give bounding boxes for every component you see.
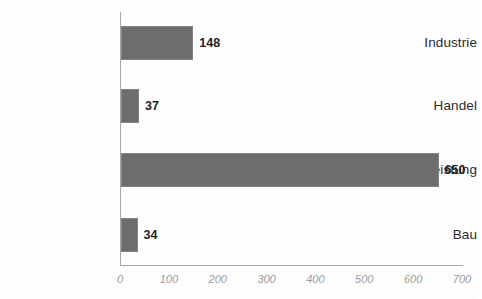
category-label-industrie: Industrie bbox=[365, 36, 477, 50]
bar-dienstleistung bbox=[121, 153, 439, 187]
value-label-bau: 34 bbox=[144, 229, 158, 242]
value-label-handel: 37 bbox=[145, 100, 159, 113]
x-tick-label-400: 400 bbox=[295, 274, 335, 285]
x-tick-label-600: 600 bbox=[393, 274, 433, 285]
category-label-handel: Handel bbox=[365, 99, 477, 113]
bar-industrie bbox=[121, 26, 193, 60]
x-tick-label-700: 700 bbox=[442, 274, 482, 285]
value-label-dienstleistung: 650 bbox=[445, 164, 466, 177]
x-tick-label-500: 500 bbox=[344, 274, 384, 285]
category-label-bau: Bau bbox=[365, 228, 477, 242]
bar-handel bbox=[121, 89, 139, 123]
x-tick-label-100: 100 bbox=[149, 274, 189, 285]
bar-bau bbox=[121, 218, 138, 252]
x-tick-label-300: 300 bbox=[247, 274, 287, 285]
x-tick-label-0: 0 bbox=[100, 274, 140, 285]
x-tick-label-200: 200 bbox=[198, 274, 238, 285]
x-axis-line bbox=[120, 265, 463, 266]
value-label-industrie: 148 bbox=[199, 37, 220, 50]
